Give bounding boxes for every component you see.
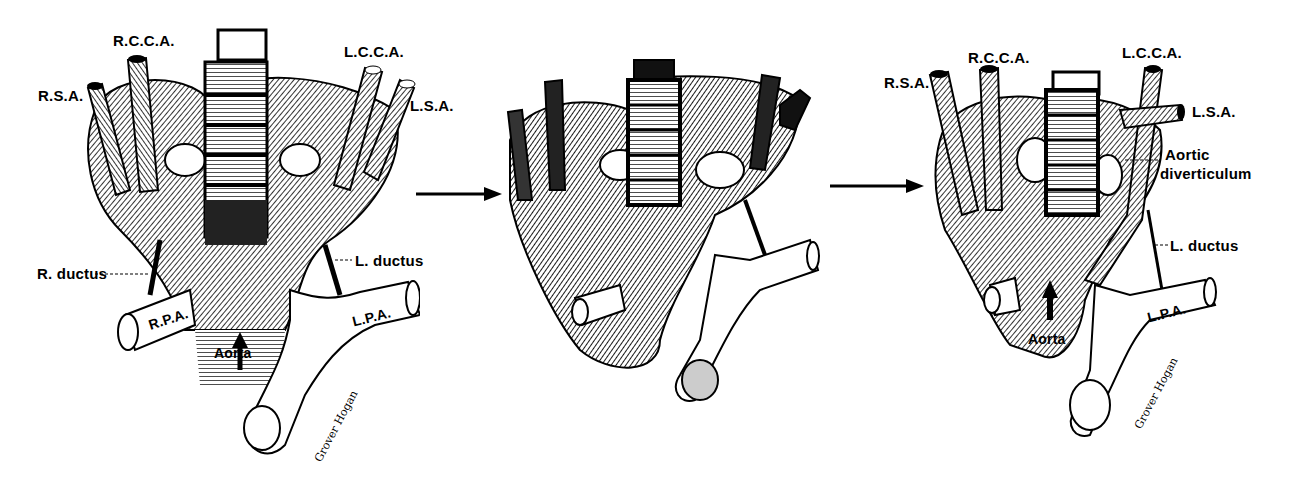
arrow-right-icon: [414, 184, 504, 204]
label-lsa: L.S.A.: [410, 98, 454, 113]
label-l-ductus: L. ductus: [1170, 238, 1238, 253]
label-lcca: L.C.C.A.: [1122, 45, 1182, 60]
label-l-ductus: L. ductus: [355, 253, 423, 268]
panel-right-arch-diverticulum: R.S.A. R.C.C.A. L.C.C.A. L.S.A. Aortic d…: [870, 0, 1294, 487]
label-rsa: R.S.A.: [38, 88, 83, 103]
label-r-ductus: R. ductus: [37, 266, 107, 281]
double-arch-illustration: [0, 0, 420, 487]
label-lcca: L.C.C.A.: [344, 44, 404, 59]
label-rcca: R.C.C.A.: [968, 50, 1030, 65]
intermediate-arch-illustration: [500, 0, 830, 487]
panel-double-aortic-arch: R.S.A. R.C.C.A. L.C.C.A. L.S.A. R. ductu…: [0, 0, 420, 487]
label-lsa: L.S.A.: [1192, 104, 1236, 119]
label-rcca: R.C.C.A.: [113, 33, 175, 48]
label-aorta: Aorta: [1028, 332, 1066, 346]
panel-intermediate-stage: [500, 0, 830, 487]
label-aorta: Aorta: [214, 346, 252, 360]
label-aortic-diverticulum: Aortic: [1165, 147, 1210, 162]
label-rsa: R.S.A.: [884, 75, 929, 90]
label-aortic-diverticulum-2: diverticulum: [1160, 166, 1252, 181]
